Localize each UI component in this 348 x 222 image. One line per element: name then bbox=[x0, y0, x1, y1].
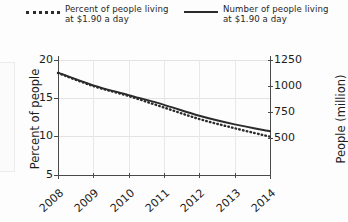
y-tick-right bbox=[268, 86, 273, 87]
page-edge-artifact bbox=[0, 62, 15, 172]
y-tick-left bbox=[54, 136, 59, 137]
x-tick-label: 2010 bbox=[107, 186, 137, 214]
x-tick-label: 2012 bbox=[178, 186, 208, 214]
plot-area bbox=[58, 60, 270, 175]
x-tick-label: 2008 bbox=[37, 186, 67, 214]
legend-label-number: Number of people living at $1.90 a day bbox=[223, 4, 329, 24]
y-tick-label-right: 1250 bbox=[274, 53, 302, 66]
x-tick bbox=[58, 173, 59, 178]
y-axis-left-title: Percent of people bbox=[28, 54, 42, 184]
y-tick-right bbox=[268, 60, 273, 61]
x-tick bbox=[235, 173, 236, 178]
chart-legend: Percent of people living at $1.90 a day … bbox=[26, 4, 336, 30]
y-axis-right-line bbox=[270, 56, 271, 179]
solid-line-marker-icon bbox=[184, 11, 218, 13]
y-axis-right-title: People (million) bbox=[334, 54, 348, 184]
legend-entry-number: Number of people living at $1.90 a day bbox=[184, 4, 336, 30]
x-tick bbox=[129, 173, 130, 178]
x-tick-label: 2011 bbox=[143, 186, 173, 214]
y-tick-right bbox=[268, 138, 273, 139]
legend-entry-percent: Percent of people living at $1.90 a day bbox=[26, 4, 176, 30]
y-tick-right bbox=[268, 112, 273, 113]
x-tick-label: 2009 bbox=[72, 186, 102, 214]
x-tick bbox=[199, 173, 200, 178]
y-tick-label-right: 750 bbox=[274, 105, 295, 118]
x-tick-label: 2014 bbox=[249, 186, 279, 214]
dotted-line-marker-icon bbox=[26, 11, 60, 14]
y-tick-left bbox=[54, 98, 59, 99]
y-tick-label-right: 500 bbox=[274, 131, 295, 144]
x-tick bbox=[270, 173, 271, 178]
legend-label-percent: Percent of people living at $1.90 a day bbox=[65, 4, 169, 24]
x-tick bbox=[164, 173, 165, 178]
x-tick-label: 2013 bbox=[213, 186, 243, 214]
y-tick-left bbox=[54, 60, 59, 61]
series-lines bbox=[58, 60, 270, 175]
y-tick-label-right: 1000 bbox=[274, 79, 302, 92]
x-tick bbox=[93, 173, 94, 178]
line-number-of-people bbox=[58, 73, 270, 132]
